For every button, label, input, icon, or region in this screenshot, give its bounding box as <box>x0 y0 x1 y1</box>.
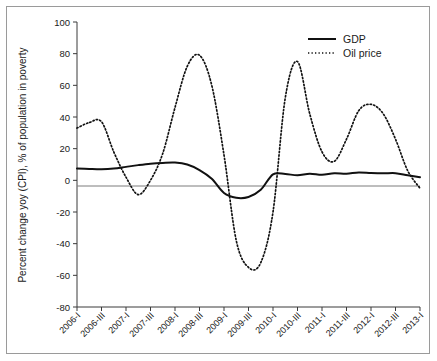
y-axis-tick-label: 20 <box>59 143 70 154</box>
y-axis-tick-label: 60 <box>59 80 70 91</box>
y-axis-tick-label: -40 <box>56 238 70 249</box>
x-axis: 2006-I2006-III2007-I2007-III2008-I2008-I… <box>57 307 425 339</box>
x-axis-tick-label: 2011-III <box>324 310 352 338</box>
x-axis-tick-label: 2010-III <box>274 310 303 339</box>
y-axis-tick-label: 40 <box>59 112 70 123</box>
y-axis-tick-label: 100 <box>54 17 70 28</box>
y-axis-tick-label: -80 <box>56 302 70 313</box>
y-axis-title: Percent change yoy (CPI), % of populatio… <box>17 47 28 282</box>
series-line-oil-price <box>77 54 420 270</box>
x-axis-tick-labels: 2006-I2006-III2007-I2007-III2008-I2008-I… <box>57 310 425 339</box>
y-axis-tick-label: -20 <box>56 207 70 218</box>
legend-label-oil-price: Oil price <box>343 47 382 59</box>
chart-figure: 100806040200-20-40-60-80 2006-I2006-III2… <box>0 0 437 361</box>
x-axis-tick-label: 2008-III <box>176 310 205 339</box>
y-axis-ticks <box>73 22 77 307</box>
y-axis-tick-label: 0 <box>65 175 70 186</box>
y-axis-tick-labels: 100806040200-20-40-60-80 <box>54 17 70 313</box>
chart-legend: GDP Oil price <box>308 33 382 59</box>
y-axis-tick-label: -60 <box>56 270 70 281</box>
x-axis-tick-label: 2007-III <box>127 310 156 339</box>
x-axis-tick-label: 2006-III <box>78 310 107 339</box>
x-axis-tick-label: 2013-I <box>400 310 425 335</box>
x-axis-tick-label: 2009-III <box>225 310 254 339</box>
legend-label-gdp: GDP <box>343 33 366 45</box>
x-axis-tick-label: 2012-III <box>372 310 401 339</box>
chart-plot-area: 100806040200-20-40-60-80 2006-I2006-III2… <box>0 0 437 361</box>
y-axis: 100806040200-20-40-60-80 <box>54 17 77 313</box>
y-axis-tick-label: 80 <box>59 48 70 59</box>
